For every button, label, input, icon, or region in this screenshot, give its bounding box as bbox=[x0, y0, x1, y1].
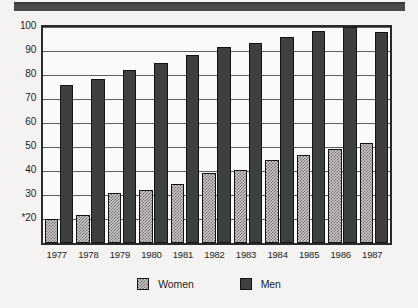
bar-men-1987 bbox=[375, 32, 389, 243]
y-axis-tick-label: 30 bbox=[25, 188, 36, 199]
bar-women-1987 bbox=[360, 143, 374, 243]
women-swatch-icon bbox=[137, 278, 149, 290]
men-swatch-icon bbox=[240, 278, 252, 290]
bar-women-1984 bbox=[265, 160, 279, 243]
bar-men-1982 bbox=[217, 47, 231, 243]
x-axis-tick-label: 1982 bbox=[204, 249, 224, 260]
bar-men-1980 bbox=[154, 63, 168, 243]
x-axis-tick-label: 1986 bbox=[331, 249, 351, 260]
y-axis-tick-label: 90 bbox=[25, 44, 36, 55]
y-axis-tick-label: 40 bbox=[25, 164, 36, 175]
bar-women-1979 bbox=[108, 193, 122, 243]
y-axis-tick-label: 60 bbox=[25, 116, 36, 127]
y-axis-tick-label: 70 bbox=[25, 92, 36, 103]
bar-men-1981 bbox=[186, 55, 200, 243]
bar-women-1978 bbox=[76, 215, 90, 243]
x-axis-tick-label: 1981 bbox=[173, 249, 193, 260]
bar-men-1977 bbox=[60, 85, 74, 243]
legend-label-men: Men bbox=[261, 278, 281, 290]
x-axis-tick-label: 1983 bbox=[236, 249, 256, 260]
y-axis-tick-label: 80 bbox=[25, 68, 36, 79]
header-band bbox=[14, 2, 405, 11]
bar-men-1979 bbox=[123, 70, 137, 243]
y-axis-labels: *2030405060708090100 bbox=[0, 0, 41, 308]
bar-women-1980 bbox=[139, 190, 153, 243]
bar-women-1981 bbox=[171, 184, 185, 243]
x-axis-tick-label: 1980 bbox=[141, 249, 161, 260]
x-axis-tick-label: 1987 bbox=[362, 249, 382, 260]
bar-women-1986 bbox=[328, 149, 342, 243]
chart-root: *2030405060708090100 1977197819791980198… bbox=[0, 0, 418, 308]
x-axis-labels: 1977197819791980198119821983198419851986… bbox=[41, 249, 392, 265]
x-axis-tick-label: 1985 bbox=[299, 249, 319, 260]
bar-women-1983 bbox=[234, 170, 248, 243]
legend-item-men[interactable]: Men bbox=[240, 278, 281, 290]
bar-men-1984 bbox=[280, 37, 294, 243]
chart-legend: Women Men bbox=[0, 278, 418, 290]
bar-women-1985 bbox=[297, 155, 311, 243]
y-axis-tick-label: 100 bbox=[20, 20, 36, 31]
bar-women-1982 bbox=[202, 173, 216, 243]
bar-men-1986 bbox=[343, 27, 357, 243]
bar-men-1985 bbox=[312, 31, 326, 243]
x-axis-tick-label: 1978 bbox=[78, 249, 98, 260]
legend-label-women: Women bbox=[158, 278, 194, 290]
legend-item-women[interactable]: Women bbox=[137, 278, 194, 290]
bar-men-1978 bbox=[91, 79, 105, 243]
plot-area bbox=[41, 25, 392, 245]
x-axis-tick-label: 1979 bbox=[110, 249, 130, 260]
bars-layer bbox=[43, 27, 390, 243]
y-axis-tick-label: *20 bbox=[22, 212, 36, 223]
x-axis-tick-label: 1977 bbox=[47, 249, 67, 260]
y-axis-tick-label: 50 bbox=[25, 140, 36, 151]
bar-men-1983 bbox=[249, 43, 263, 243]
x-axis-tick-label: 1984 bbox=[267, 249, 287, 260]
bar-women-1977 bbox=[45, 219, 59, 243]
